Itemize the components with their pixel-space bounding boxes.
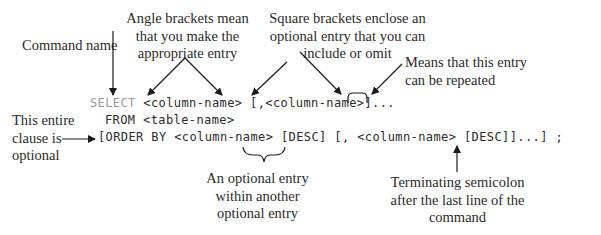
square-arrow-left-icon bbox=[252, 62, 287, 95]
repeated-arrow-icon bbox=[372, 64, 402, 94]
arrows-layer bbox=[0, 0, 601, 235]
nested-brace-icon bbox=[243, 147, 285, 162]
square-arrow-right-icon bbox=[300, 52, 341, 94]
angle-arrow-left-icon bbox=[148, 58, 185, 95]
ellipsis-arc-icon bbox=[348, 93, 367, 103]
angle-arrow-right-icon bbox=[185, 58, 222, 95]
